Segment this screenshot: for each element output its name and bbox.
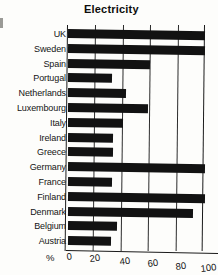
category-label: UK bbox=[0, 29, 66, 39]
bar-luxembourg bbox=[68, 103, 148, 114]
bar-row bbox=[68, 160, 205, 175]
category-label: Austria bbox=[0, 236, 66, 246]
x-axis-ticks: 0 20 40 60 80 100 bbox=[62, 250, 218, 272]
category-axis: UK Sweden Spain Portugal Netherlands Lux… bbox=[0, 27, 66, 249]
bar-row bbox=[68, 57, 205, 72]
bar-spain bbox=[68, 59, 150, 70]
chart-title: Electricity bbox=[84, 3, 139, 15]
bar-row bbox=[68, 27, 205, 42]
bar-series bbox=[68, 27, 205, 249]
bar-row bbox=[68, 145, 205, 160]
plot-area bbox=[68, 27, 205, 249]
bar-denmark bbox=[68, 207, 193, 218]
x-axis-unit-label: % bbox=[46, 252, 54, 263]
x-tick-label: 0 bbox=[66, 250, 73, 262]
bar-france bbox=[68, 177, 112, 187]
bar-row bbox=[68, 205, 205, 220]
bar-row bbox=[68, 71, 205, 86]
bar-row bbox=[68, 131, 205, 146]
bar-germany bbox=[68, 162, 205, 174]
bar-row bbox=[68, 190, 205, 205]
category-label: France bbox=[0, 177, 66, 187]
bar-row bbox=[68, 175, 205, 190]
category-label: Finland bbox=[0, 192, 66, 202]
bar-austria bbox=[68, 236, 111, 246]
category-label: Germany bbox=[0, 162, 66, 172]
bar-ireland bbox=[68, 133, 113, 143]
category-label: Denmark bbox=[0, 207, 66, 217]
category-label: Greece bbox=[0, 147, 66, 157]
bar-row bbox=[68, 219, 205, 234]
category-label: Ireland bbox=[0, 133, 66, 143]
category-label: Spain bbox=[0, 59, 66, 69]
category-label: Belgium bbox=[0, 221, 66, 231]
bar-row bbox=[68, 86, 205, 101]
x-tick-label: 60 bbox=[147, 257, 159, 269]
category-label: Portugal bbox=[0, 73, 66, 83]
bar-italy bbox=[68, 118, 123, 128]
category-label: Sweden bbox=[0, 44, 66, 54]
category-label: Netherlands bbox=[0, 88, 66, 98]
bar-portugal bbox=[68, 73, 112, 83]
category-label: Luxembourg bbox=[0, 103, 66, 113]
x-tick-label: 100 bbox=[200, 261, 217, 274]
bar-row bbox=[68, 101, 205, 116]
bar-sweden bbox=[68, 44, 205, 56]
bar-netherlands bbox=[68, 88, 126, 98]
bar-belgium bbox=[68, 221, 117, 231]
chart-root: Electricity UK Sweden Spain Portugal Net… bbox=[0, 0, 218, 275]
x-tick-label: 80 bbox=[175, 259, 187, 271]
x-tick-label: 20 bbox=[89, 252, 101, 264]
bar-row bbox=[68, 234, 205, 249]
category-label: Italy bbox=[0, 118, 66, 128]
bar-uk bbox=[68, 29, 205, 41]
bar-finland bbox=[68, 192, 205, 204]
bar-greece bbox=[68, 147, 113, 157]
bar-row bbox=[68, 42, 205, 57]
bar-row bbox=[68, 116, 205, 131]
x-tick-label: 40 bbox=[119, 254, 131, 266]
